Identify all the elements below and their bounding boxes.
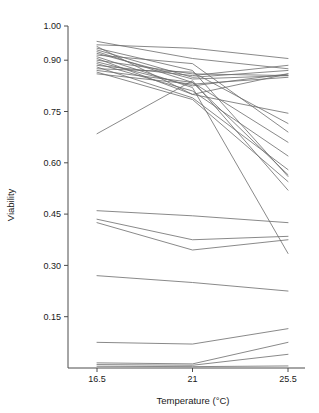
- y-tick-label: 0.15: [43, 312, 61, 322]
- y-tick-label: 1.00: [43, 21, 61, 31]
- viability-temperature-chart: 1.000.900.750.600.450.300.1516.52125.5 T…: [0, 0, 319, 413]
- series-line: [97, 72, 288, 181]
- series-line: [97, 81, 288, 190]
- x-tick-label: 21: [187, 374, 197, 384]
- series-line: [97, 57, 288, 254]
- series-line: [97, 329, 288, 344]
- series-line: [97, 276, 288, 291]
- chart-plot-area: 1.000.900.750.600.450.300.1516.52125.5 T…: [0, 0, 319, 413]
- series-line: [97, 366, 288, 367]
- x-tick-label: 16.5: [88, 374, 106, 384]
- series-line: [97, 342, 288, 364]
- series-line: [97, 211, 288, 223]
- x-axis-title: Temperature (°C): [157, 395, 230, 406]
- y-tick-label: 0.90: [43, 55, 61, 65]
- series-group: [97, 41, 288, 366]
- y-axis-title: Viability: [5, 188, 16, 221]
- series-line: [97, 223, 288, 250]
- y-tick-label: 0.60: [43, 158, 61, 168]
- series-line: [97, 219, 288, 240]
- y-tick-label: 0.30: [43, 261, 61, 271]
- series-line: [97, 60, 288, 75]
- series-line: [97, 52, 288, 143]
- y-tick-label: 0.75: [43, 107, 61, 117]
- x-tick-label: 25.5: [279, 374, 297, 384]
- y-tick-label: 0.45: [43, 209, 61, 219]
- series-line: [97, 55, 288, 132]
